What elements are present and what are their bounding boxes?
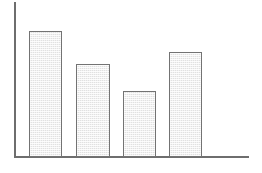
bar-3[interactable] [123,91,156,157]
bar-4[interactable] [169,52,202,157]
bar-2[interactable] [76,64,110,157]
y-axis-line [14,2,16,158]
plot-area [0,0,262,173]
bar-1[interactable] [29,31,62,157]
bar-chart [0,0,262,173]
